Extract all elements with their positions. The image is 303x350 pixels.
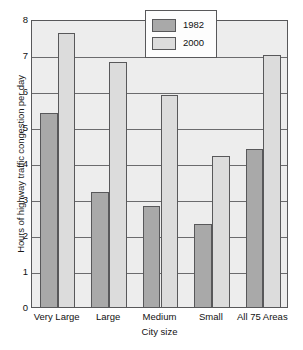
y-axis-tick-label: 0 [15, 303, 28, 313]
bar-2000-small [212, 156, 230, 307]
bar-1982-medium [143, 206, 161, 307]
bars-layer [32, 21, 287, 307]
x-axis-tick-label: All 75 Areas [237, 311, 288, 323]
legend-swatch-2000 [152, 37, 176, 50]
y-axis-tick-label: 2 [15, 231, 28, 241]
legend-swatch-1982 [152, 19, 176, 32]
legend-item-2000: 2000 [152, 34, 216, 52]
y-axis-tick-label: 6 [15, 87, 28, 97]
x-axis-tick-label: Very Large [34, 311, 80, 323]
x-axis-tick-label: Small [199, 311, 223, 323]
y-axis-tick-label: 4 [15, 159, 28, 169]
legend-item-1982: 1982 [152, 16, 216, 34]
x-axis-tick-label: Medium [143, 311, 177, 323]
y-axis-tick-label: 7 [15, 51, 28, 61]
plot-area [31, 20, 288, 308]
x-axis-title: City size [31, 326, 288, 337]
x-axis-tick-labels: Very LargeLargeMediumSmallAll 75 Areas [31, 311, 288, 325]
x-axis-tick-label: Large [96, 311, 120, 323]
bar-1982-all-75-areas [246, 149, 264, 307]
legend-label-2000: 2000 [183, 38, 204, 48]
y-axis-tick-label: 1 [15, 267, 28, 277]
y-axis-tick-label: 8 [15, 15, 28, 25]
bar-2000-all-75-areas [263, 55, 281, 307]
chart-legend: 1982 2000 [145, 10, 217, 58]
bar-1982-small [194, 224, 212, 307]
y-axis-tick-label: 3 [15, 195, 28, 205]
y-axis-tick-label: 5 [15, 123, 28, 133]
y-axis-tick-labels: 012345678 [15, 0, 28, 350]
bar-2000-medium [161, 95, 179, 307]
legend-label-1982: 1982 [183, 20, 204, 30]
bar-1982-large [91, 192, 109, 307]
bar-2000-very-large [58, 33, 76, 307]
bar-1982-very-large [40, 113, 58, 307]
bar-2000-large [109, 62, 127, 307]
bar-chart-figure: Hours of highway traffic congestion per … [0, 0, 303, 350]
